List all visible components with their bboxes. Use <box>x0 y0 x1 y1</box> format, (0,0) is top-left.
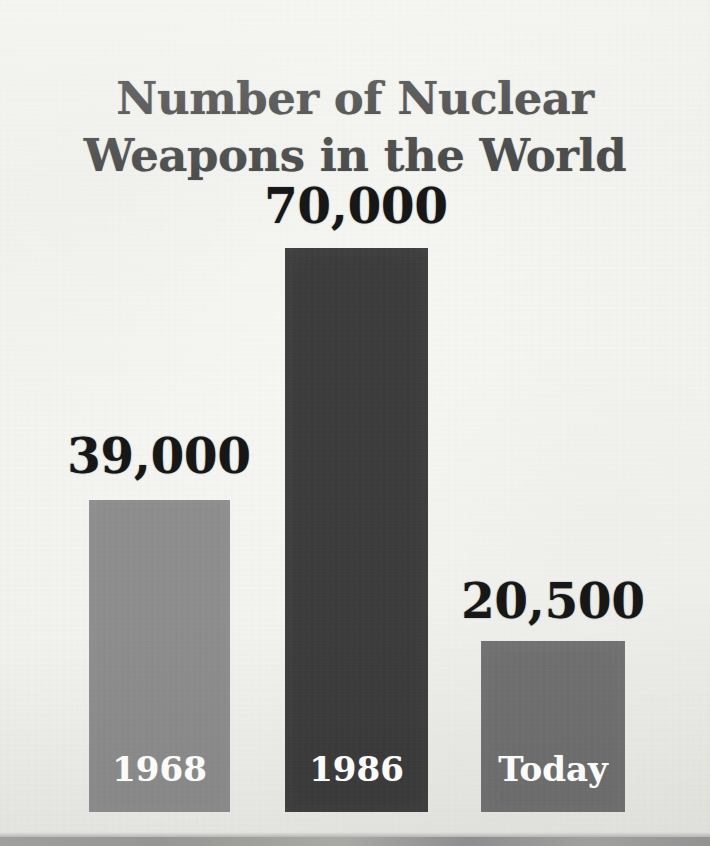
bar-chart-plot-area: 39,000 1968 70,000 1986 20,500 Today <box>0 0 710 846</box>
bar-group-today: 20,500 Today <box>481 641 625 812</box>
bar-group-1986: 70,000 1986 <box>285 248 428 812</box>
value-label-1968: 39,000 <box>29 432 289 480</box>
bottom-scan-band <box>0 837 710 846</box>
value-label-today: 20,500 <box>423 577 683 625</box>
category-label-today: Today <box>481 752 625 786</box>
category-label-1986: 1986 <box>285 752 428 786</box>
value-label-1986: 70,000 <box>226 182 486 230</box>
category-label-1968: 1968 <box>89 752 230 786</box>
bar-group-1968: 39,000 1968 <box>89 500 230 812</box>
nuclear-weapons-infographic: Number of Nuclear Weapons in the World 3… <box>0 0 710 846</box>
bar-1986[interactable] <box>285 248 428 812</box>
